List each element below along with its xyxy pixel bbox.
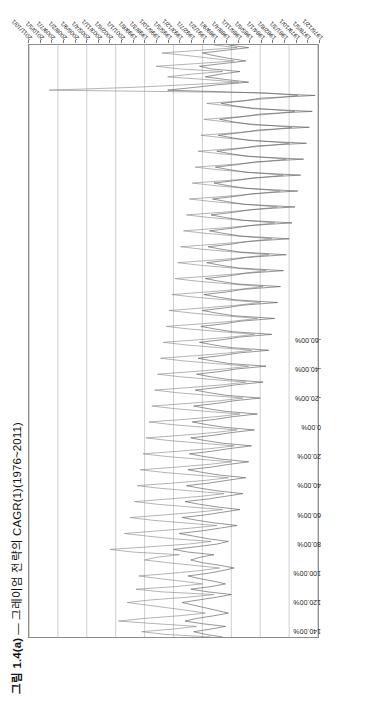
value-axis-tick-label: 140.00% <box>293 628 321 635</box>
value-axis-tick-label: 0.00% <box>301 424 321 431</box>
value-axis-tick-label: 60.00% <box>297 512 321 519</box>
value-axis: 140.00%120.00%100.00%80.00%60.00%40.00%2… <box>319 44 377 638</box>
value-axis-tick-label: -40.00% <box>295 366 321 373</box>
series-line <box>168 45 315 637</box>
chart-canvas <box>29 45 318 637</box>
value-axis-tick-label: 100.00% <box>293 570 321 577</box>
value-axis-tick-label: 20.00% <box>297 453 321 460</box>
plot-area <box>28 44 319 638</box>
figure-caption-text: 그레이엄 전략의 CAGR(1)(1976~2011) <box>11 422 23 620</box>
value-axis-tick-label: -20.00% <box>295 395 321 402</box>
value-axis-tick-label: 120.00% <box>293 599 321 606</box>
figure-page: 그림 1.4(a)—그레이엄 전략의 CAGR(1)(1976~2011) 그레… <box>0 0 378 702</box>
figure-caption: 그림 1.4(a)—그레이엄 전략의 CAGR(1)(1976~2011) <box>8 422 24 694</box>
value-axis-tick-label: 40.00% <box>297 483 321 490</box>
value-axis-tick-label: 80.00% <box>297 541 321 548</box>
figure: 그림 1.4(a)—그레이엄 전략의 CAGR(1)(1976~2011) 그레… <box>0 0 378 702</box>
category-axis: 1976/12/11978/5/11979/10/11981/3/11982/8… <box>28 0 319 43</box>
figure-number: 그림 1.4(a) <box>11 638 23 694</box>
rotated-figure-wrapper: 그림 1.4(a)—그레이엄 전략의 CAGR(1)(1976~2011) 그레… <box>0 0 378 702</box>
value-axis-tick-label: -60.00% <box>295 337 321 344</box>
caption-dash: — <box>11 620 23 638</box>
